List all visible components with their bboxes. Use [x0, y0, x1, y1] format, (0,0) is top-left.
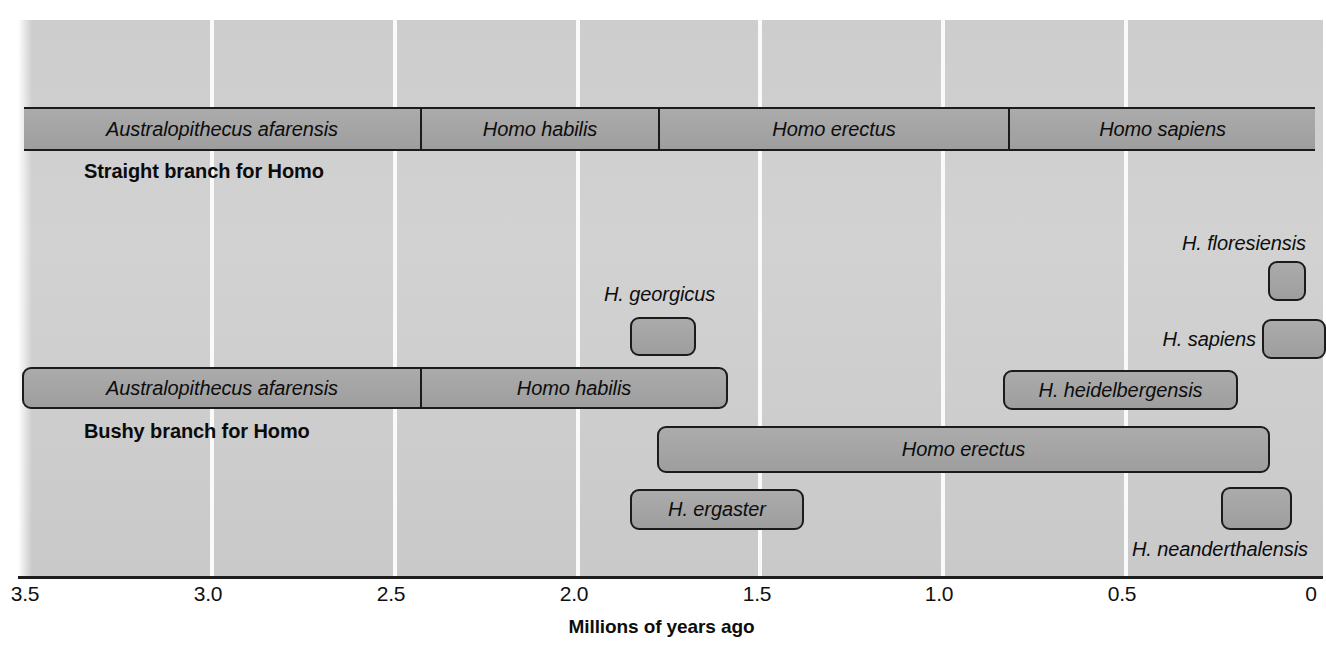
label-h-neanderthalensis: H. neanderthalensis [1132, 538, 1308, 561]
label-h-georgicus: H. georgicus [604, 283, 715, 306]
gridline-2.0 [576, 20, 580, 576]
bushy-bar-homo-erectus[interactable]: Homo erectus [657, 426, 1270, 473]
label-h-floresiensis: H. floresiensis [1182, 232, 1306, 255]
bushy-bar-h-floresiensis[interactable] [1268, 261, 1306, 301]
bushy-bar-h-sapiens[interactable] [1262, 319, 1326, 359]
bar-label: Homo erectus [902, 438, 1025, 461]
gridline-3.0 [210, 20, 214, 576]
x-axis-title: Millions of years ago [0, 616, 1323, 638]
x-tick-1.5: 1.5 [743, 582, 772, 606]
gridline-0.5 [1124, 20, 1128, 576]
bar-label: Homo erectus [772, 118, 895, 141]
x-tick-2.5: 2.5 [377, 582, 406, 606]
straight-branch-title: Straight branch for Homo [84, 160, 324, 183]
bar-label: H. ergaster [668, 498, 766, 521]
x-tick-3.0: 3.0 [194, 582, 223, 606]
straight-segment-australopithecus-afarensis[interactable]: Australopithecus afarensis [24, 109, 420, 149]
bushy-bar-h-neanderthalensis[interactable] [1221, 487, 1292, 530]
straight-segment-homo-habilis[interactable]: Homo habilis [422, 109, 658, 149]
bushy-bar-h-ergaster[interactable]: H. ergaster [630, 489, 804, 530]
gridline-2.5 [393, 20, 397, 576]
bar-label: H. heidelbergensis [1039, 379, 1203, 402]
bar-label: Australopithecus afarensis [106, 118, 338, 141]
bar-label: Homo sapiens [1099, 118, 1226, 141]
x-tick-3.5: 3.5 [11, 582, 40, 606]
bushy-bar-h-georgicus[interactable] [630, 317, 696, 356]
straight-segment-homo-erectus[interactable]: Homo erectus [660, 109, 1008, 149]
bushy-bar-h-heidelbergensis[interactable]: H. heidelbergensis [1003, 370, 1238, 410]
bushy-bar-homo-habilis[interactable]: Homo habilis [420, 367, 728, 409]
bushy-bar-australopithecus-afarensis[interactable]: Australopithecus afarensis [22, 367, 422, 409]
gridline-1.0 [941, 20, 945, 576]
straight-segment-homo-sapiens[interactable]: Homo sapiens [1010, 109, 1315, 149]
bar-label: Homo habilis [483, 118, 597, 141]
bar-label: Homo habilis [517, 377, 631, 400]
x-axis-line [18, 576, 1323, 579]
x-tick-2.0: 2.0 [560, 582, 589, 606]
label-h-sapiens: H. sapiens [1163, 328, 1257, 351]
bar-label: Australopithecus afarensis [106, 377, 338, 400]
panel-left-vignette [18, 20, 32, 576]
x-tick-0: 0 [1305, 582, 1316, 606]
x-tick-0.5: 0.5 [1108, 582, 1137, 606]
bushy-branch-title: Bushy branch for Homo [84, 420, 310, 443]
straight-branch-bar[interactable]: Australopithecus afarensis Homo habilis … [24, 107, 1315, 151]
x-tick-1.0: 1.0 [925, 582, 954, 606]
